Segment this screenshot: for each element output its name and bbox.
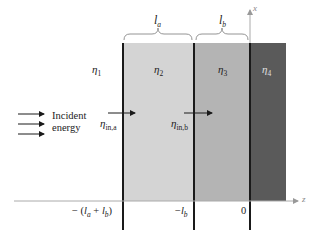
label-eta-in-b: ηin,b	[171, 117, 188, 132]
tick-label-minus-lb: −lb	[175, 205, 188, 219]
brace-la	[124, 28, 192, 40]
incident-label-line1: Incident	[52, 111, 86, 121]
label-la: la	[154, 13, 161, 29]
label-eta3: η3	[218, 63, 227, 78]
label-eta1: η1	[92, 63, 101, 78]
label-eta2: η2	[154, 63, 163, 78]
label-eta-in-a: ηin,a	[100, 117, 117, 132]
label-eta4: η4	[262, 63, 271, 78]
tick-label-minus-la-plus-lb: − (la + lb)	[72, 205, 112, 219]
diagram-overlay	[0, 0, 317, 242]
z-axis-label: z	[302, 194, 306, 204]
tick-label-zero: 0	[241, 205, 246, 216]
x-axis-label: x	[253, 3, 257, 13]
label-lb: lb	[219, 13, 226, 29]
incident-label-line2: energy	[52, 123, 80, 133]
brace-lb	[196, 28, 248, 40]
